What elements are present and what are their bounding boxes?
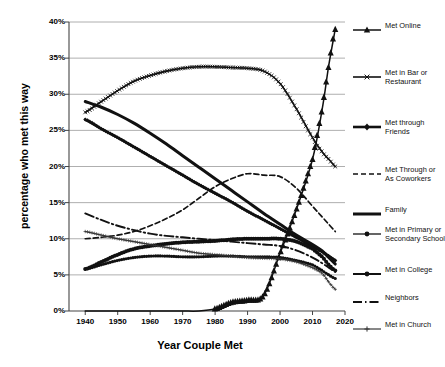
y-tick-label: 15% — [34, 198, 65, 207]
legend-item-family[interactable]: Family — [352, 206, 407, 218]
y-tick-label: 40% — [34, 17, 65, 26]
line-chart: 0%5%10%15%20%25%30%35%40% 19401950196019… — [0, 0, 445, 367]
legend-item-met-in-bar-or-restaurant[interactable]: Met in Bar or Restaurant — [352, 69, 445, 86]
x-tick-label: 1970 — [166, 317, 200, 326]
legend-swatch-met-in-primary-or-secondary-school — [352, 226, 382, 238]
legend-item-met-through-or-as-coworkers[interactable]: Met Through or As Coworkers — [352, 166, 445, 183]
legend-item-neighbors[interactable]: Neighbors — [352, 294, 419, 306]
y-tick-label: 5% — [34, 270, 65, 279]
legend-item-met-in-college[interactable]: Met in College — [352, 266, 432, 278]
y-tick-label: 35% — [34, 53, 65, 62]
x-tick-label: 2000 — [263, 317, 297, 326]
y-tick-label: 30% — [34, 89, 65, 98]
y-tick-label: 20% — [34, 162, 65, 171]
legend-swatch-met-in-college — [352, 266, 382, 278]
y-tick-label: 25% — [34, 125, 65, 134]
series-layer — [83, 26, 338, 312]
legend-swatch-met-in-church — [352, 321, 382, 333]
x-axis-title: Year Couple Met — [60, 339, 340, 351]
legend-label-neighbors: Neighbors — [385, 294, 419, 303]
legend-swatch-met-through-or-as-coworkers — [352, 166, 382, 178]
x-tick-label: 1960 — [133, 317, 167, 326]
series-met-in-primary-or-secondary-school — [84, 254, 337, 280]
legend-label-met-in-church: Met in Church — [385, 321, 431, 330]
legend-swatch-met-through-friends — [352, 119, 382, 131]
legend-label-met-in-college: Met in College — [385, 266, 432, 275]
x-tick-label: 2010 — [296, 317, 330, 326]
legend-item-met-in-church[interactable]: Met in Church — [352, 321, 431, 333]
legend-swatch-family — [352, 206, 382, 218]
legend-swatch-neighbors — [352, 294, 382, 306]
legend-label-met-through-or-as-coworkers: Met Through or As Coworkers — [385, 166, 445, 183]
legend-item-met-in-primary-or-secondary-school[interactable]: Met in Primary or Secondary School — [352, 226, 445, 243]
x-tick-label: 1940 — [68, 317, 102, 326]
legend-swatch-met-online — [352, 22, 382, 34]
x-tick-label: 1980 — [198, 317, 232, 326]
x-tick-label: 1950 — [101, 317, 135, 326]
legend-label-met-in-primary-or-secondary-school: Met in Primary or Secondary School — [385, 226, 445, 243]
legend-item-met-online[interactable]: Met Online — [352, 22, 421, 34]
legend-label-met-online: Met Online — [385, 22, 421, 31]
y-tick-label: 10% — [34, 234, 65, 243]
chart-legend: Met OnlineMet in Bar or RestaurantMet th… — [352, 0, 445, 330]
y-axis-title: percentage who met this way — [18, 46, 30, 266]
legend-label-met-in-bar-or-restaurant: Met in Bar or Restaurant — [385, 69, 445, 86]
y-tick-label: 0% — [34, 306, 65, 315]
legend-label-met-through-friends: Met through Friends — [385, 119, 445, 136]
x-tick-label: 1990 — [231, 317, 265, 326]
legend-swatch-met-in-bar-or-restaurant — [352, 69, 382, 81]
legend-item-met-through-friends[interactable]: Met through Friends — [352, 119, 445, 136]
legend-label-family: Family — [385, 206, 407, 215]
